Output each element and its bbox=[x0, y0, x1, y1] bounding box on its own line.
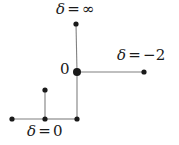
equals-operator: = bbox=[36, 122, 53, 140]
equals-operator: = bbox=[65, 0, 82, 18]
minus-two-value: −2 bbox=[143, 46, 166, 64]
label-delta-zero: δ=0 bbox=[27, 124, 63, 139]
label-delta-minus-two: δ=−2 bbox=[117, 48, 166, 63]
node-right bbox=[141, 69, 146, 74]
zero-value: 0 bbox=[53, 122, 63, 140]
node-branch-top bbox=[42, 87, 47, 92]
node-bottom bbox=[74, 116, 79, 121]
edge-top-to-origin bbox=[76, 24, 77, 72]
delta-graph-figure: δ=∞ δ=−2 δ=0 0 bbox=[0, 0, 179, 145]
node-top bbox=[73, 21, 78, 26]
node-branch-base bbox=[42, 116, 47, 121]
label-delta-infinity: δ=∞ bbox=[56, 2, 95, 17]
delta-symbol: δ bbox=[27, 122, 36, 140]
equals-operator: = bbox=[126, 46, 143, 64]
delta-symbol: δ bbox=[117, 46, 126, 64]
node-origin bbox=[73, 68, 81, 76]
node-left-end bbox=[9, 116, 14, 121]
label-origin-zero: 0 bbox=[60, 62, 70, 77]
infinity-value: ∞ bbox=[82, 0, 95, 18]
delta-symbol: δ bbox=[56, 0, 65, 18]
